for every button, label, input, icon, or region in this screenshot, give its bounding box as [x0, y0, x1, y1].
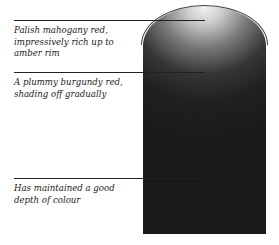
annotation-3: Has maintained a good depth of colour — [14, 183, 139, 206]
annotation-leader-line-3 — [14, 178, 205, 179]
annotation-1: Palish mahogany red, impressively rich u… — [14, 25, 139, 60]
annotation-2: A plummy burgundy red, shading off gradu… — [14, 77, 139, 100]
annotation-leader-line-2 — [14, 72, 205, 73]
annotation-leader-line-1 — [14, 20, 205, 21]
glass-rim-outline — [141, 5, 268, 45]
